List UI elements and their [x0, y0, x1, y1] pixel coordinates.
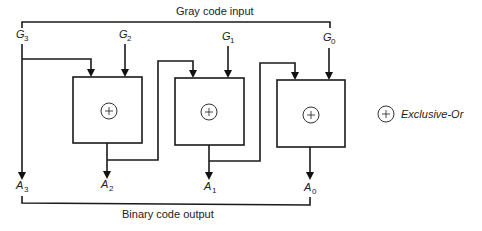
svg-text:0: 0	[312, 187, 317, 196]
input-label-g0: G 0	[323, 31, 336, 46]
arrow-icon	[224, 70, 232, 78]
input-bus	[22, 22, 330, 28]
input-label-g3: G 3	[16, 28, 29, 43]
svg-text:3: 3	[24, 185, 29, 194]
arrow-icon	[306, 172, 314, 180]
svg-text:2: 2	[109, 184, 114, 193]
arrow-icon	[205, 172, 213, 180]
svg-text:1: 1	[212, 186, 217, 195]
svg-text:A: A	[203, 180, 211, 192]
input-label-g2: G 2	[119, 28, 132, 43]
arrow-icon	[189, 70, 197, 78]
output-bus	[22, 196, 310, 205]
g3-branch-wire	[22, 59, 91, 70]
arrow-icon	[87, 69, 95, 77]
svg-text:3: 3	[24, 34, 29, 43]
gray-to-binary-diagram: Gray code input G 3 G 2 G 1 G 0	[0, 0, 482, 231]
gray-code-input-title: Gray code input	[176, 5, 254, 17]
svg-text:1: 1	[230, 36, 235, 45]
arrow-icon	[121, 69, 129, 77]
binary-code-output-title: Binary code output	[122, 208, 214, 220]
svg-text:0: 0	[331, 37, 336, 46]
input-label-g1: G 1	[222, 30, 235, 45]
svg-text:A: A	[15, 179, 23, 191]
svg-text:2: 2	[127, 34, 132, 43]
output-label-a1: A 1	[203, 180, 217, 195]
svg-text:A: A	[303, 181, 311, 193]
output-label-a2: A 2	[100, 178, 114, 193]
arrow-icon	[325, 72, 333, 80]
legend: Exclusive-Or	[378, 106, 465, 122]
output-label-a3: A 3	[15, 179, 29, 194]
svg-text:A: A	[100, 178, 108, 190]
legend-label: Exclusive-Or	[401, 108, 465, 120]
arrow-icon	[291, 72, 299, 80]
output-label-a0: A 0	[303, 181, 317, 196]
